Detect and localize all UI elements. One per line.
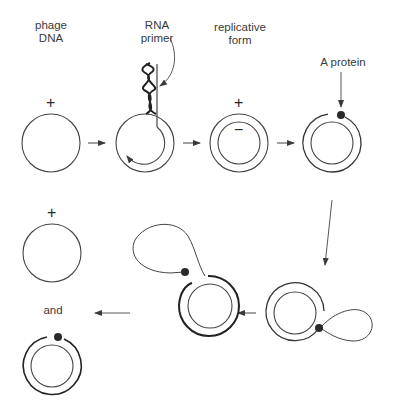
a-protein-dot bbox=[315, 324, 323, 332]
template-circle bbox=[116, 114, 174, 172]
nicked-outer-strand bbox=[303, 114, 361, 172]
and-label: and bbox=[40, 304, 66, 317]
primer-pointer-arrow bbox=[160, 38, 175, 86]
minus-sign-replicative: − bbox=[234, 122, 243, 138]
replicative-form-label-line2: form bbox=[210, 34, 270, 47]
replicative-form-label: replicative form bbox=[210, 21, 270, 47]
product-single-strand-circle bbox=[23, 224, 81, 282]
replicative-form-label-line1: replicative bbox=[210, 21, 270, 34]
a-protein-dot bbox=[181, 268, 189, 276]
a-protein-dot bbox=[54, 333, 62, 341]
primer-helix bbox=[142, 63, 156, 114]
a-protein-label: A protein bbox=[316, 56, 370, 69]
primer-initiation-stage bbox=[116, 38, 175, 172]
rna-primer-label-line1: RNA bbox=[135, 19, 179, 32]
product-nicked-double-circle bbox=[23, 333, 81, 395]
a-protein-dot bbox=[337, 111, 345, 119]
new-strand-arrow bbox=[127, 127, 165, 164]
plus-sign-phage: + bbox=[46, 95, 55, 111]
rolling-circle-loop-stage bbox=[266, 283, 372, 341]
phage-dna-label: phage DNA bbox=[30, 19, 72, 45]
plus-sign-replicative: + bbox=[234, 95, 243, 111]
plus-sign-product: + bbox=[47, 205, 56, 221]
phage-dna-label-line2: DNA bbox=[30, 32, 72, 45]
phage-dna-label-line1: phage bbox=[30, 19, 72, 32]
arrow-4 bbox=[325, 200, 332, 265]
rna-primer-label: RNA primer bbox=[135, 19, 179, 45]
phage-dna-circle bbox=[22, 114, 80, 172]
rolling-circle-tail-stage bbox=[133, 224, 239, 336]
a-protein-stage bbox=[303, 72, 361, 172]
diagram: phage DNA RNA primer replicative form A … bbox=[0, 0, 393, 418]
displaced-strand-tail bbox=[133, 224, 205, 276]
rna-primer-label-line2: primer bbox=[135, 32, 179, 45]
displaced-strand-loop bbox=[322, 310, 372, 341]
